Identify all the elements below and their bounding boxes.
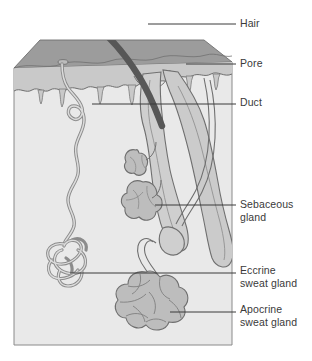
label-sebaceous-gland: Sebaceous gland	[240, 198, 293, 224]
label-eccrine-sweat-gland: Eccrine sweat gland	[240, 264, 297, 290]
label-duct: Duct	[240, 96, 262, 109]
label-hair: Hair	[240, 17, 260, 30]
label-pore: Pore	[240, 57, 263, 70]
label-apocrine-sweat-gland: Apocrine sweat gland	[240, 303, 297, 329]
